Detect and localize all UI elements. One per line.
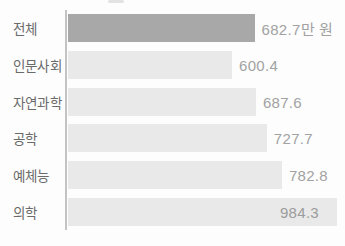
value-label: 600.4 (239, 56, 278, 73)
chart-row: 인문사회 600.4 (0, 51, 345, 79)
chart-row: 자연과학 687.6 (0, 88, 345, 116)
value-label: 782.8 (289, 167, 328, 184)
value-label: 682.7만 원 (262, 18, 334, 39)
bar-chart: 전체 682.7만 원 인문사회 600.4 자연과학 687.6 공학 (0, 0, 345, 246)
value-label: 984.3 (280, 203, 319, 220)
bar-track: 984.3 (68, 198, 337, 226)
category-label: 전체 (0, 14, 66, 42)
category-label: 공학 (0, 124, 66, 152)
chart-rows: 전체 682.7만 원 인문사회 600.4 자연과학 687.6 공학 (0, 14, 345, 226)
bar-track: 687.6 (68, 88, 337, 116)
chart-row: 공학 727.7 (0, 124, 345, 152)
bar (68, 124, 267, 152)
value-label: 687.6 (263, 93, 302, 110)
bar (68, 14, 255, 42)
scan-artifact (108, 0, 124, 3)
value-label: 727.7 (274, 130, 313, 147)
chart-row: 예체능 782.8 (0, 161, 345, 189)
bar-track: 782.8 (68, 161, 337, 189)
bar (68, 88, 256, 116)
chart-row: 전체 682.7만 원 (0, 14, 345, 42)
bar-track: 727.7 (68, 124, 337, 152)
bar (68, 51, 232, 79)
bar-track: 600.4 (68, 51, 337, 79)
category-label: 인문사회 (0, 51, 66, 79)
category-label: 예체능 (0, 161, 66, 189)
chart-row: 의학 984.3 (0, 198, 345, 226)
category-label: 의학 (0, 198, 66, 226)
bar (68, 161, 282, 189)
category-label: 자연과학 (0, 88, 66, 116)
bar-track: 682.7만 원 (68, 14, 337, 42)
